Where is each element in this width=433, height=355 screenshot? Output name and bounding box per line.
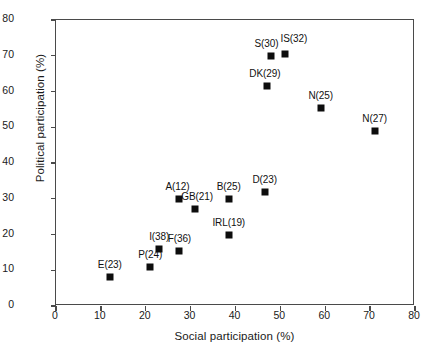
data-point-marker: [147, 263, 154, 270]
x-axis-tick-label: 40: [222, 309, 248, 321]
data-point-label: F(36): [168, 233, 191, 244]
plot-inner: E(23)P(24)I(38)F(36)A(12)GB(21)IRL(19)B(…: [56, 20, 413, 304]
plot-area: E(23)P(24)I(38)F(36)A(12)GB(21)IRL(19)B(…: [55, 19, 414, 305]
x-axis-title: Social participation (%): [55, 330, 414, 342]
y-axis-tick: [51, 19, 56, 20]
data-point-marker: [261, 188, 268, 195]
y-axis-tick-label: 20: [0, 227, 14, 239]
y-axis-tick-label: 10: [0, 262, 14, 274]
data-point-label: IS(32): [281, 33, 308, 44]
y-axis-tick: [51, 127, 56, 128]
y-axis-tick-label: 40: [0, 155, 14, 167]
data-point-label: I(38): [149, 231, 169, 242]
y-axis-tick: [51, 91, 56, 92]
data-point-marker: [156, 245, 163, 252]
y-axis-tick-label: 80: [0, 12, 14, 24]
y-axis-tick-label: 70: [0, 48, 14, 60]
data-point-marker: [106, 274, 113, 281]
y-axis-tick-label: 0: [0, 298, 14, 310]
x-axis-tick-label: 70: [356, 309, 382, 321]
data-point-marker: [268, 52, 275, 59]
y-axis-tick-label: 30: [0, 191, 14, 203]
x-axis-tick-label: 20: [132, 309, 158, 321]
y-axis-title: Political participation (%): [34, 0, 46, 258]
y-axis-tick: [51, 55, 56, 56]
x-axis-tick-label: 50: [266, 309, 292, 321]
data-point-label: IRL(19): [212, 217, 245, 228]
data-point-marker: [192, 206, 199, 213]
x-axis-tick-label: 30: [177, 309, 203, 321]
data-point-marker: [225, 195, 232, 202]
data-point-label: GB(21): [181, 191, 213, 202]
y-axis-tick-label: 60: [0, 84, 14, 96]
data-point-label: D(23): [252, 174, 277, 185]
data-point-label: B(25): [217, 181, 241, 192]
data-point-label: DK(29): [249, 68, 280, 79]
y-axis-tick-label: 50: [0, 119, 14, 131]
x-axis-tick-label: 0: [42, 309, 68, 321]
data-point-label: N(27): [362, 113, 387, 124]
x-axis-tick-label: 10: [87, 309, 113, 321]
data-point-marker: [371, 127, 378, 134]
data-point-label: S(30): [254, 38, 278, 49]
data-point-marker: [317, 104, 324, 111]
data-point-label: N(25): [308, 90, 333, 101]
data-point-marker: [176, 247, 183, 254]
x-axis-tick-label: 80: [401, 309, 427, 321]
y-axis-tick: [51, 270, 56, 271]
x-axis-tick-label: 60: [311, 309, 337, 321]
y-axis-tick: [51, 198, 56, 199]
data-point-label: A(12): [165, 181, 189, 192]
scatter-plot-figure: Political participation (%) E(23)P(24)I(…: [0, 0, 433, 355]
data-point-marker: [281, 50, 288, 57]
y-axis-tick: [51, 234, 56, 235]
y-axis-tick: [51, 162, 56, 163]
data-point-marker: [263, 83, 270, 90]
data-point-marker: [225, 231, 232, 238]
data-point-label: E(23): [98, 259, 122, 270]
